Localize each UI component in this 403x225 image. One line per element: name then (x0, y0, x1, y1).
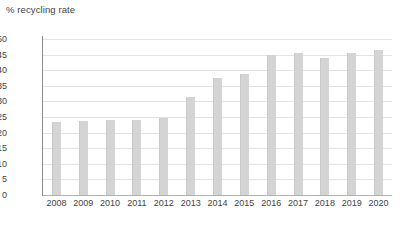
x-tick-label: 2011 (127, 198, 146, 208)
x-tick-label: 2018 (315, 198, 335, 208)
y-tick-label: 10 (0, 159, 7, 169)
gridline (43, 39, 392, 40)
y-tick-label: 15 (0, 143, 7, 153)
x-tick-label: 2009 (73, 198, 93, 208)
recycling-rate-bar-chart: % recycling rate 05101520253035404550 20… (0, 0, 403, 225)
bar (52, 122, 61, 195)
x-tick-label: 2008 (46, 198, 66, 208)
bar (320, 58, 329, 195)
x-tick-label: 2015 (234, 198, 254, 208)
x-tick-label: 2010 (100, 198, 120, 208)
y-tick-label: 20 (0, 128, 7, 138)
y-tick-label: 40 (0, 65, 7, 75)
bar (79, 121, 88, 195)
gridline (43, 55, 392, 56)
plot-area (43, 39, 392, 195)
y-tick-label: 5 (2, 174, 7, 184)
x-tick-label: 2016 (261, 198, 281, 208)
y-tick-label: 30 (0, 96, 7, 106)
x-tick-label: 2013 (181, 198, 201, 208)
y-tick-label: 35 (0, 81, 7, 91)
y-tick-label: 50 (0, 34, 7, 44)
bar (240, 74, 249, 195)
bar (294, 53, 303, 195)
bar (267, 55, 276, 195)
bar (213, 78, 222, 195)
y-tick-label: 25 (0, 112, 7, 122)
bar (374, 50, 383, 195)
x-axis-tick-labels: 2008200920102011201220132014201520162017… (43, 198, 392, 214)
bar (186, 97, 195, 195)
y-tick-label: 45 (0, 50, 7, 60)
gridline (43, 70, 392, 71)
x-tick-label: 2012 (154, 198, 174, 208)
x-tick-label: 2014 (207, 198, 227, 208)
bar (132, 120, 141, 195)
bar (347, 53, 356, 195)
chart-title: % recycling rate (6, 4, 75, 15)
x-tick-label: 2017 (288, 198, 308, 208)
gridline (43, 195, 392, 196)
bar (159, 118, 168, 195)
x-tick-label: 2019 (342, 198, 362, 208)
y-tick-label: 0 (2, 190, 7, 200)
x-tick-label: 2020 (369, 198, 389, 208)
bar (106, 120, 115, 195)
